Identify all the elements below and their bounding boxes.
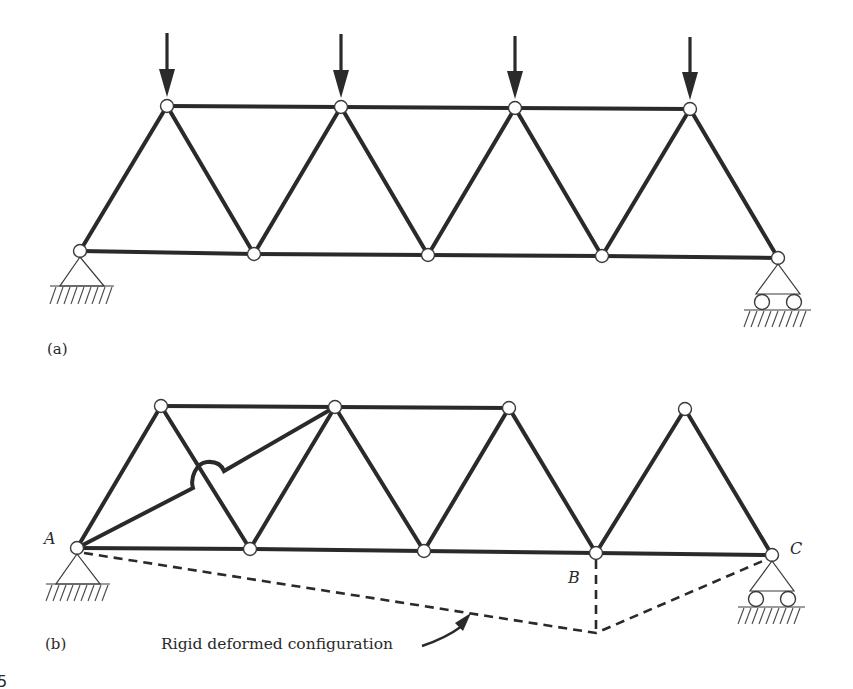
truss-diagram — [0, 0, 853, 689]
truss-b — [46, 400, 805, 647]
annotation-arrow — [422, 613, 471, 646]
web-b-left — [77, 406, 772, 555]
roller-support-a — [744, 264, 811, 327]
joints-b — [71, 400, 779, 562]
panel-label-b: (b) — [45, 635, 66, 653]
panel-label-a: (a) — [47, 340, 68, 358]
joints-a — [74, 100, 785, 265]
top-chord-a — [167, 106, 690, 109]
deformed-shape — [84, 553, 772, 633]
figure-number-fragment: 5 — [0, 672, 7, 689]
web-a — [80, 106, 778, 258]
point-label-a: A — [44, 529, 56, 548]
point-label-b: B — [568, 568, 580, 587]
annotation-caption: Rigid deformed configuration — [161, 635, 393, 653]
pin-support-b — [46, 554, 110, 601]
load-arrows — [159, 33, 698, 100]
roller-support-b — [738, 561, 805, 624]
truss-a — [50, 33, 811, 327]
point-label-c: C — [790, 539, 802, 558]
pin-support-a — [50, 257, 114, 304]
